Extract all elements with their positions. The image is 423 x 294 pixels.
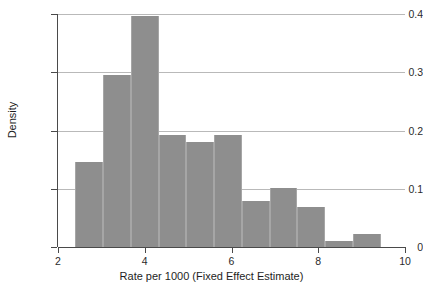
x-tick-mark [318, 248, 319, 253]
histogram-bar [297, 207, 325, 247]
y-axis-line [57, 14, 58, 247]
x-tick-label: 8 [303, 256, 333, 267]
gridline [58, 14, 405, 15]
y-tick-mark [51, 189, 57, 190]
histogram-bar [159, 135, 187, 247]
y-tick-mark [51, 247, 57, 248]
histogram-bar [353, 234, 381, 247]
x-axis-title: Rate per 1000 (Fixed Effect Estimate) [0, 270, 423, 282]
histogram-bar [186, 142, 214, 247]
y-tick-mark [51, 14, 57, 15]
x-tick-label: 4 [130, 256, 160, 267]
histogram-bar [103, 75, 131, 247]
x-tick-mark [145, 248, 146, 253]
histogram-bar [214, 135, 242, 247]
x-tick-mark [58, 248, 59, 253]
x-tick-label: 6 [217, 256, 247, 267]
gridline [58, 72, 405, 73]
x-tick-label: 2 [43, 256, 73, 267]
x-tick-mark [232, 248, 233, 253]
histogram-bar [75, 162, 103, 247]
y-tick-label: 0 [379, 242, 423, 253]
y-tick-label: 0.4 [379, 9, 423, 20]
histogram-bar [242, 201, 270, 247]
y-tick-label: 0.3 [379, 67, 423, 78]
y-axis-title: Density [6, 70, 18, 170]
y-tick-mark [51, 72, 57, 73]
y-tick-label: 0.1 [379, 184, 423, 195]
plot-area [58, 14, 405, 247]
x-tick-mark [405, 248, 406, 253]
histogram-bar [270, 188, 298, 247]
histogram-bar [131, 16, 159, 247]
histogram-figure: 00.10.20.30.4 246810 Rate per 1000 (Fixe… [0, 0, 423, 294]
y-tick-label: 0.2 [379, 125, 423, 136]
y-tick-mark [51, 131, 57, 132]
x-tick-label: 10 [390, 256, 420, 267]
